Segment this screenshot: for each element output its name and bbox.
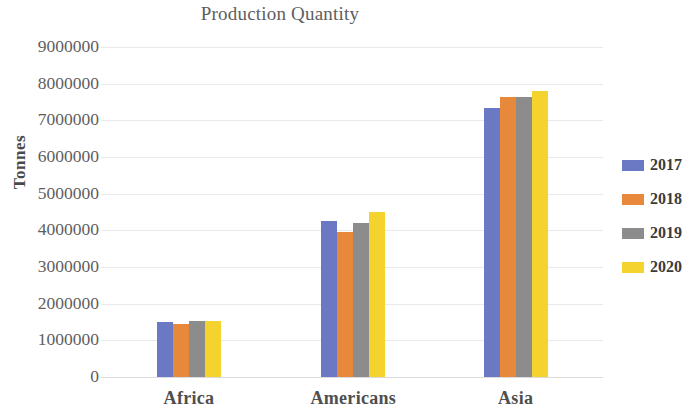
chart-title: Production Quantity (0, 3, 560, 25)
y-tick-label: 0 (3, 368, 99, 386)
bar-africa-2018[interactable] (173, 324, 189, 377)
bar-group-americans (321, 47, 385, 377)
y-tick-label: 8000000 (3, 75, 99, 93)
chart-legend: 2017201820192020 (622, 148, 693, 284)
legend-swatch-icon-2018 (622, 194, 644, 205)
x-label-asia: Asia (446, 388, 586, 409)
legend-swatch-icon-2019 (622, 228, 644, 239)
x-axis-category-labels: AfricaAmericansAsia (101, 388, 603, 418)
bar-asia-2017[interactable] (484, 108, 500, 378)
legend-item-2019[interactable]: 2019 (622, 216, 693, 250)
bar-asia-2020[interactable] (532, 91, 548, 377)
legend-item-2020[interactable]: 2020 (622, 250, 693, 284)
legend-swatch-icon-2017 (622, 160, 644, 171)
gridline (101, 377, 603, 378)
bar-americans-2020[interactable] (369, 212, 385, 377)
bar-africa-2019[interactable] (189, 321, 205, 377)
y-tick-label: 5000000 (3, 185, 99, 203)
legend-label: 2017 (650, 157, 682, 173)
legend-label: 2018 (650, 191, 682, 207)
bar-asia-2019[interactable] (516, 97, 532, 378)
y-axis-tick-labels: 9000000800000070000006000000500000040000… (0, 47, 99, 377)
y-tick-label: 7000000 (3, 111, 99, 129)
legend-item-2018[interactable]: 2018 (622, 182, 693, 216)
y-tick-label: 9000000 (3, 38, 99, 56)
legend-item-2017[interactable]: 2017 (622, 148, 693, 182)
legend-label: 2019 (650, 225, 682, 241)
bar-chart: Production Quantity Tonnes 9000000800000… (0, 0, 693, 420)
bar-africa-2017[interactable] (157, 322, 173, 377)
bar-group-africa (157, 47, 221, 377)
y-tick-label: 2000000 (3, 295, 99, 313)
bar-americans-2018[interactable] (337, 232, 353, 377)
legend-swatch-icon-2020 (622, 262, 644, 273)
x-label-africa: Africa (119, 388, 259, 409)
y-tick-label: 1000000 (3, 331, 99, 349)
y-tick-label: 6000000 (3, 148, 99, 166)
plot-area (101, 47, 603, 377)
x-label-americans: Americans (283, 388, 423, 409)
bar-group-asia (484, 47, 548, 377)
bar-africa-2020[interactable] (205, 321, 221, 377)
bar-americans-2017[interactable] (321, 221, 337, 377)
y-tick-label: 3000000 (3, 258, 99, 276)
y-tick-label: 4000000 (3, 221, 99, 239)
bar-americans-2019[interactable] (353, 223, 369, 377)
bar-asia-2018[interactable] (500, 97, 516, 378)
legend-label: 2020 (650, 259, 682, 275)
